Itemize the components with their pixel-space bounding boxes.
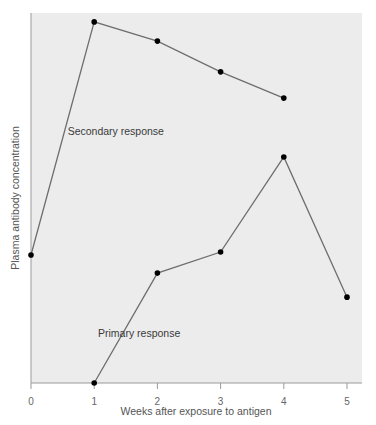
- x-axis-title: Weeks after exposure to antigen: [121, 405, 272, 417]
- secondary-response-data-point: [155, 38, 161, 44]
- x-tick-label: 4: [281, 396, 287, 407]
- primary-response-data-point: [155, 270, 161, 276]
- x-tick-label: 5: [344, 396, 350, 407]
- secondary-response-data-point: [28, 252, 34, 258]
- x-axis-ticks: 012345: [28, 383, 350, 407]
- primary-response-data-point: [218, 249, 224, 255]
- secondary-response-data-point: [218, 69, 224, 75]
- secondary-response-data-point: [281, 95, 287, 101]
- x-tick-label: 1: [91, 396, 97, 407]
- primary-response-label: Primary response: [98, 327, 180, 339]
- primary-response-data-point: [281, 154, 287, 160]
- primary-response-data-point: [344, 294, 350, 300]
- y-axis-title: Plasma antibody concentration: [9, 126, 21, 270]
- x-tick-label: 0: [28, 396, 34, 407]
- plot-background: [31, 13, 362, 383]
- secondary-response-label: Secondary response: [68, 125, 164, 137]
- primary-response-data-point: [91, 380, 97, 386]
- antibody-response-chart: 012345 Secondary responsePrimary respons…: [0, 0, 376, 425]
- secondary-response-data-point: [91, 19, 97, 25]
